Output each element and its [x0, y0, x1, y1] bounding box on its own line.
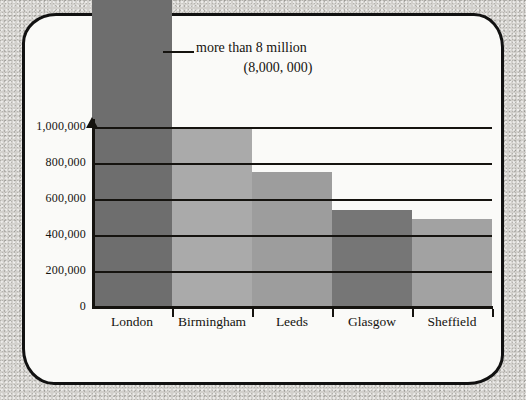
bar-london — [92, 0, 172, 307]
gridline-200000 — [92, 271, 492, 273]
page-background: 0200,000400,000600,000800,0001,000,000 L… — [0, 0, 526, 400]
x-label-london: London — [92, 314, 172, 330]
x-label-birmingham: Birmingham — [172, 314, 252, 330]
x-label-leeds: Leeds — [252, 314, 332, 330]
gridline-1000000 — [92, 127, 492, 129]
annotation-leader-line — [163, 51, 194, 53]
gridline-800000 — [92, 163, 492, 165]
bar-birmingham — [172, 127, 252, 307]
x-label-sheffield: Sheffield — [412, 314, 492, 330]
y-tick-label-0: 0 — [6, 299, 86, 314]
y-axis-tick-labels: 0200,000400,000600,000800,0001,000,000 — [0, 0, 86, 400]
x-tick-end — [492, 309, 494, 317]
bar-leeds — [252, 172, 332, 307]
y-tick-label-400000: 400,000 — [6, 227, 86, 242]
y-tick-label-600000: 600,000 — [6, 191, 86, 206]
gridline-600000 — [92, 199, 492, 201]
x-label-glasgow: Glasgow — [332, 314, 412, 330]
annotation-line-2: (8,000, 000) — [196, 58, 360, 78]
y-axis-arrow-icon — [86, 117, 98, 128]
bar-sheffield — [412, 219, 492, 307]
annotation-line-1: more than 8 million — [196, 38, 426, 58]
annotation-more-than-8-million: more than 8 million (8,000, 000) — [196, 38, 426, 79]
y-tick-label-1000000: 1,000,000 — [6, 119, 86, 134]
x-axis-line — [92, 306, 493, 309]
y-tick-label-800000: 800,000 — [6, 155, 86, 170]
bar-glasgow — [332, 210, 412, 307]
y-axis-line — [92, 119, 95, 309]
y-tick-label-200000: 200,000 — [6, 263, 86, 278]
gridline-400000 — [92, 235, 492, 237]
